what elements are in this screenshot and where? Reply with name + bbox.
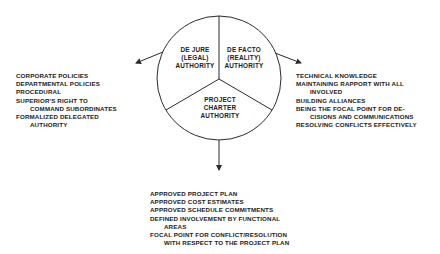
list-item: DEPARTMENTAL POLICIES [16,80,117,88]
segment-label-line: AUTHORITY [174,62,216,70]
list-item: RESOLVING CONFLICTS EFFECTIVELY [296,121,417,129]
segment-label-line: AUTHORITY [196,112,244,120]
list-item-text: MAINTAINING RAPPORT WITH ALL [296,80,404,87]
segment-project-charter: PROJECT CHARTER AUTHORITY [196,96,244,120]
segment-label-line: (LEGAL) [174,54,216,62]
list-item: PROCEDURAL [16,88,117,96]
list-item-continuation: COMMAND SUBORDINATES [16,105,117,113]
list-item: APPROVED COST ESTIMATES [150,198,289,206]
list-item: FORMALIZED DELEGATEDAUTHORITY [16,113,117,129]
segment-de-facto: DE FACTO (REALITY) AUTHORITY [222,46,266,70]
list-item: BUILDING ALLIANCES [296,97,417,105]
list-item-text: TECHNICAL KNOWLEDGE [296,72,377,79]
list-item-text: RESOLVING CONFLICTS EFFECTIVELY [296,121,417,128]
list-item-text: CORPORATE POLICIES [16,72,88,79]
list-item-continuation: AREAS [150,223,289,231]
project-charter-sources-list: APPROVED PROJECT PLAN APPROVED COST ESTI… [150,190,289,247]
list-item: APPROVED PROJECT PLAN [150,190,289,198]
de-facto-sources-list: TECHNICAL KNOWLEDGE MAINTAINING RAPPORT … [296,72,417,129]
list-item: MAINTAINING RAPPORT WITH ALLINVOLVED [296,80,417,96]
segment-label-line: (REALITY) [222,54,266,62]
segment-label-line: DE FACTO [222,46,266,54]
list-item: FOCAL POINT FOR CONFLICT/RESOLUTIONWITH … [150,231,289,247]
list-item-text: APPROVED SCHEDULE COMMITMENTS [150,206,273,213]
list-item-text: SUPERIOR'S RIGHT TO [16,97,88,104]
list-item-continuation: WITH RESPECT TO THE PROJECT PLAN [150,239,289,247]
de-jure-sources-list: CORPORATE POLICIES DEPARTMENTAL POLICIES… [16,72,117,129]
list-item-text: DEPARTMENTAL POLICIES [16,80,100,87]
list-item-text: PROCEDURAL [16,88,61,95]
list-item-text: BUILDING ALLIANCES [296,97,366,104]
segment-de-jure: DE JURE (LEGAL) AUTHORITY [174,46,216,70]
segment-label-line: CHARTER [196,104,244,112]
list-item: CORPORATE POLICIES [16,72,117,80]
list-item: DEFINED INVOLVEMENT BY FUNCTIONALAREAS [150,215,289,231]
list-item: TECHNICAL KNOWLEDGE [296,72,417,80]
list-item-continuation: CISIONS AND COMMUNICATIONS [296,113,417,121]
list-item-text: FORMALIZED DELEGATED [16,113,99,120]
list-item: BEING THE FOCAL POINT FOR DE-CISIONS AND… [296,105,417,121]
list-item: APPROVED SCHEDULE COMMITMENTS [150,206,289,214]
list-item-continuation: INVOLVED [296,88,417,96]
list-item-continuation: AUTHORITY [16,121,117,129]
list-item-text: FOCAL POINT FOR CONFLICT/RESOLUTION [150,231,287,238]
list-item-text: APPROVED PROJECT PLAN [150,190,237,197]
list-item: SUPERIOR'S RIGHT TOCOMMAND SUBORDINATES [16,97,117,113]
segment-label-line: PROJECT [196,96,244,104]
segment-label-line: AUTHORITY [222,62,266,70]
list-item-text: BEING THE FOCAL POINT FOR DE- [296,105,405,112]
list-item-text: APPROVED COST ESTIMATES [150,198,244,205]
segment-label-line: DE JURE [174,46,216,54]
list-item-text: DEFINED INVOLVEMENT BY FUNCTIONAL [150,215,280,222]
